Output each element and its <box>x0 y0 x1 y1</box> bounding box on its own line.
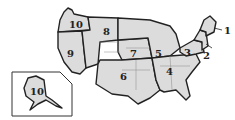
label-region-1: 1 <box>224 25 231 36</box>
label-region-4: 4 <box>166 66 173 77</box>
label-region-5: 5 <box>155 48 162 59</box>
label-region-10-alaska: 10 <box>30 86 44 97</box>
label-region-8: 8 <box>103 26 110 37</box>
label-region-10: 10 <box>69 19 83 30</box>
label-region-3: 3 <box>184 47 191 58</box>
region-4[interactable] <box>152 54 200 100</box>
label-region-9: 9 <box>67 48 74 59</box>
label-region-2: 2 <box>203 50 210 61</box>
us-regions-map: 10 8 9 7 5 3 1 2 6 4 10 <box>0 0 235 120</box>
label-region-6: 6 <box>120 71 127 82</box>
region-6[interactable] <box>96 58 160 104</box>
label-region-7: 7 <box>130 48 137 59</box>
